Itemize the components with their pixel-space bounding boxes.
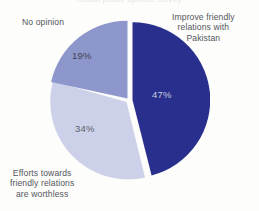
pie-graphic (46, 20, 210, 180)
pie-callout-efforts-line3: are worthless (10, 189, 74, 199)
pie-callout-improve-line3: Pakistan (172, 33, 235, 43)
pie-callout-efforts: Efforts towards friendly relations are w… (10, 168, 74, 199)
pie-callout-efforts-line1: Efforts towards (10, 168, 74, 178)
chart-title-fragment: Indian public opinion survey (0, 0, 259, 11)
pie-value-label-efforts: 34% (75, 123, 95, 134)
pie-callout-improve: Improve friendly relations with Pakistan (172, 12, 235, 43)
chart-title-text: Indian public opinion survey (77, 0, 181, 4)
pie-callout-no-opinion-line1: No opinion (22, 17, 64, 27)
pie-callout-improve-line1: Improve friendly (172, 12, 235, 22)
pie-value-label-improve: 47% (152, 89, 172, 100)
pie-callout-improve-line2: relations with (172, 22, 235, 32)
pie-callout-no-opinion: No opinion (22, 17, 64, 27)
pie-callout-efforts-line2: friendly relations (10, 178, 74, 188)
pie-slice-efforts[interactable] (50, 81, 145, 179)
pie-svg (46, 20, 210, 180)
pie-value-label-no-opinion: 19% (72, 50, 92, 61)
pie-chart-figure: Indian public opinion survey 47% 34% 19%… (0, 0, 259, 211)
